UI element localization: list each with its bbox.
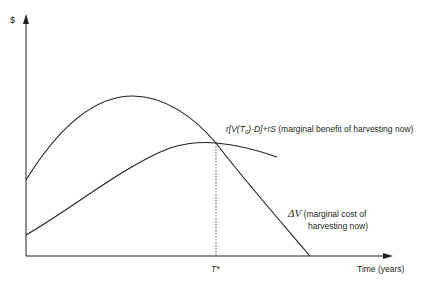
marginal-cost-curve [26, 96, 310, 256]
x-axis-label: Time (years) [357, 264, 404, 274]
benefit-formula-mid: )-D]+ [248, 124, 267, 134]
marginal-benefit-curve [26, 143, 277, 235]
y-axis-label: $ [10, 15, 15, 25]
benefit-formula-rs: rS [267, 124, 276, 134]
cost-symbol: ΔV [288, 207, 301, 219]
marginal-cost-label-line2: harvesting now) [308, 221, 368, 231]
benefit-formula-open: [V(T [229, 124, 245, 134]
benefit-description: (marginal benefit of harvesting now) [276, 124, 414, 134]
chart-canvas [0, 0, 426, 289]
x-axis-arrow-icon [383, 253, 393, 259]
y-axis-arrow-icon [23, 14, 29, 24]
cost-description-line1: (marginal cost of [301, 209, 366, 219]
t-star-tick-label: T* [211, 264, 220, 274]
marginal-benefit-label: r[V(T0)-D]+rS (marginal benefit of harve… [226, 124, 413, 135]
marginal-cost-label: ΔV (marginal cost of [288, 207, 366, 219]
